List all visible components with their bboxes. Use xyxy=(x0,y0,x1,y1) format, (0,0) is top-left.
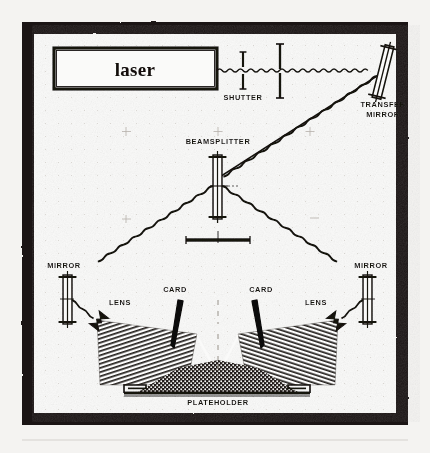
figure-canvas: laser SHUTTER TRANSFER MIRROR xyxy=(0,0,430,453)
scan-grain-overlay xyxy=(0,0,430,453)
